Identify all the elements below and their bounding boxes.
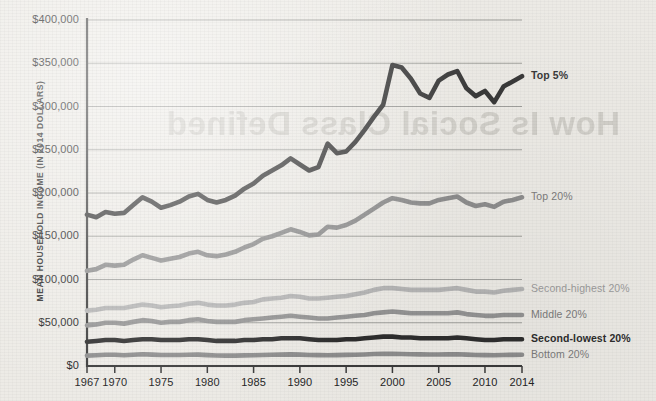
series-line-second-highest-20	[87, 288, 522, 310]
series-lines	[87, 65, 522, 356]
series-label-top-5: Top 5%	[531, 69, 568, 81]
y-axis-tick-label: $250,000	[0, 143, 79, 155]
x-axis-tick-label: 2005	[414, 376, 464, 388]
x-axis-tick-label: 1995	[321, 376, 371, 388]
y-axis-tick-label: $400,000	[0, 13, 79, 25]
y-axis-tick-label: $50,000	[0, 316, 79, 328]
gridlines	[87, 20, 522, 323]
x-axis-tick-label: 1970	[90, 376, 140, 388]
x-axis-tick-label: 1980	[182, 376, 232, 388]
y-axis-tick-label: $150,000	[0, 229, 79, 241]
series-line-second-lowest-20	[87, 337, 522, 342]
series-label-middle-20: Middle 20%	[531, 308, 587, 320]
y-axis-tick-label: $200,000	[0, 186, 79, 198]
x-axis-tick-label: 2014	[497, 376, 547, 388]
series-line-middle-20	[87, 312, 522, 326]
x-axis-tick-label: 1975	[136, 376, 186, 388]
series-label-top-20: Top 20%	[531, 190, 573, 202]
series-line-top-20	[87, 196, 522, 270]
series-label-bottom-20: Bottom 20%	[531, 348, 589, 360]
x-axis-tick-label: 1985	[229, 376, 279, 388]
series-line-bottom-20	[87, 354, 522, 356]
y-axis-tick-label: $300,000	[0, 100, 79, 112]
x-axis-tick-label: 1990	[275, 376, 325, 388]
series-label-second-lowest-20: Second-lowest 20%	[531, 332, 631, 344]
y-axis-tick-label: $100,000	[0, 273, 79, 285]
chart-page: How Is Social Class Defined MEAN HOUSEHO…	[0, 0, 656, 401]
x-axis-tick-label: 2000	[367, 376, 417, 388]
series-label-second-highest-20: Second-highest 20%	[531, 282, 630, 294]
y-axis-tick-label: $0	[0, 359, 79, 371]
y-axis-tick-label: $350,000	[0, 56, 79, 68]
